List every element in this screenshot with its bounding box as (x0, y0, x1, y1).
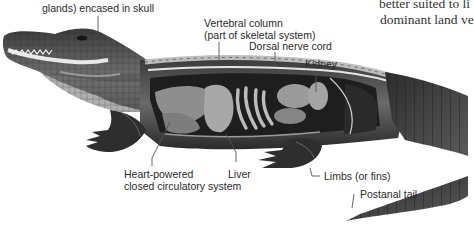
label-limbs: Limbs (or fins) (324, 170, 391, 182)
label-dorsal-nerve-cord: Dorsal nerve cord (249, 40, 332, 52)
label-heart: Heart-powered closed circulatory system (124, 168, 241, 192)
label-postanal-tail: Postanal tail (360, 188, 417, 200)
label-kidney: Kidney (305, 58, 337, 70)
label-heart-line2: closed circulatory system (124, 180, 241, 192)
label-brain: glands) encased in skull (42, 2, 154, 14)
trunk (140, 58, 405, 150)
body-text-line2: dominant land ve (380, 11, 474, 28)
label-liver: Liver (228, 168, 251, 180)
label-heart-line1: Heart-powered (124, 168, 241, 180)
head (3, 28, 150, 112)
label-vertebral-column: Vertebral column (part of skeletal syste… (204, 18, 315, 41)
label-vertebral-line1: Vertebral column (204, 18, 315, 30)
